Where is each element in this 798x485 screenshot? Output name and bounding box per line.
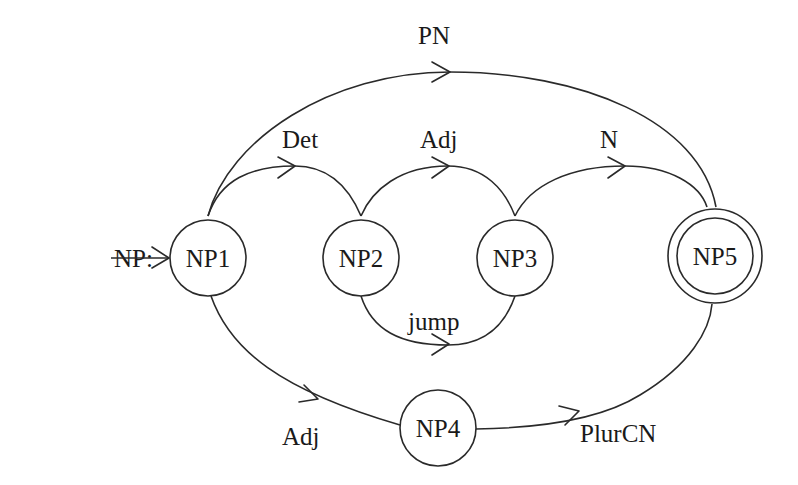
- node-label-np5: NP5: [693, 243, 737, 270]
- node-label-np4: NP4: [416, 415, 461, 442]
- node-np5-final: NP5: [668, 209, 762, 303]
- edge-n: N: [515, 126, 707, 216]
- edge-adj-bottom: Adj: [211, 296, 400, 450]
- node-np2: NP2: [323, 220, 399, 296]
- node-np4: NP4: [400, 390, 476, 466]
- node-np3: NP3: [477, 220, 553, 296]
- node-label-np2: NP2: [339, 245, 383, 272]
- edge-label-adj-bottom: Adj: [282, 423, 320, 450]
- node-label-np3: NP3: [493, 245, 537, 272]
- edge-det: Det: [208, 126, 361, 216]
- edge-label-det: Det: [282, 126, 318, 153]
- node-np1: NP1: [170, 220, 246, 296]
- node-label-np1: NP1: [186, 245, 230, 272]
- edge-pn: PN: [208, 22, 716, 216]
- edge-label-adj-top: Adj: [420, 126, 458, 153]
- edge-label-n: N: [600, 126, 618, 153]
- edge-label-plurcn: PlurCN: [580, 420, 656, 447]
- edge-label-jump: jump: [407, 308, 459, 335]
- edge-jump: jump: [361, 296, 515, 355]
- edge-plurcn: PlurCN: [476, 304, 712, 447]
- edge-adj-top: Adj: [361, 126, 515, 216]
- edge-label-pn: PN: [418, 22, 450, 49]
- atn-diagram: NP: PN Det Adj N jump Adj: [0, 0, 798, 485]
